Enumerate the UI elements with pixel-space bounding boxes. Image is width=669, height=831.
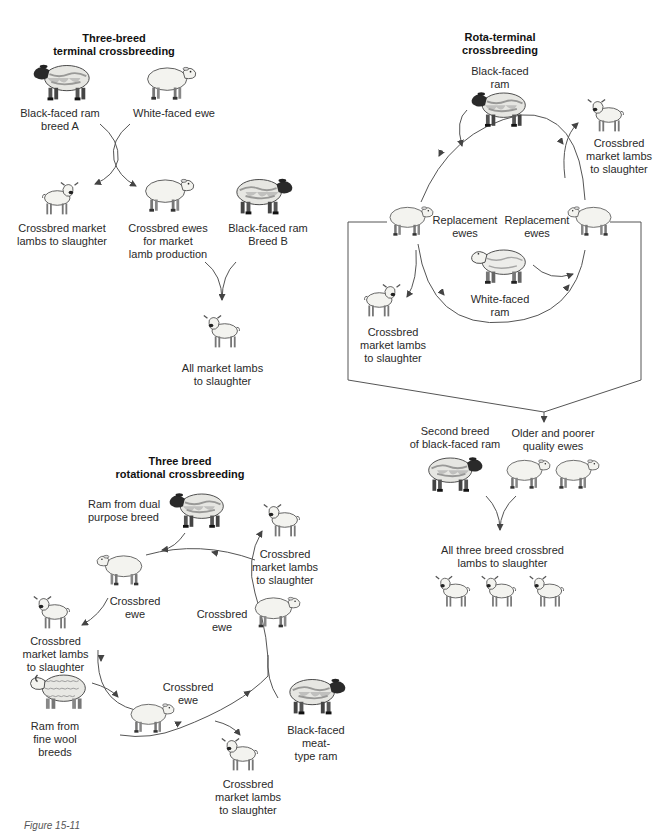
crossbred-lambs-label: Crossbred market lambs to slaughter [12,222,112,248]
crossbred-ewe-icon [140,172,196,214]
white-faced-ram-icon [470,243,530,287]
older-ewe-icon [551,452,601,492]
all-market-lambs-label: All market lambs to slaughter [170,362,275,388]
rotational-title: Three breed rotational crossbreeding [110,455,250,481]
dual-purpose-ram-icon [168,486,228,532]
crossbred-lambs-bottom-label: Crossbred market lambs to slaughter [208,778,288,817]
lamb-icon [40,178,80,218]
replacement-ewes-right-label: Replacement ewes [497,214,577,240]
black-faced-ram-b-label: Black-faced ram Breed B [218,222,318,248]
black-faced-ram-icon [470,86,530,130]
lamb-icon [220,734,260,774]
crossbred-ewe-bottom-icon [126,696,176,736]
final-lamb-icon [202,311,242,351]
crossbred-lambs-top-label: Crossbred market lambs to slaughter [250,548,320,587]
lamb-icon [480,572,518,610]
crossbred-ewe-left-label: Crossbred ewe [105,595,165,621]
second-breed-ram-icon [424,450,484,496]
terminal-title: Three-breed terminal crossbreeding [44,32,184,58]
fine-wool-ram-icon [30,668,90,714]
lamb-icon [362,280,402,320]
black-faced-ram-a-icon [32,58,94,104]
black-faced-ram-b-icon [232,172,294,218]
meat-type-ram-icon [285,672,347,718]
older-ewe-icon [502,452,552,492]
meat-type-ram-label: Black-faced meat- type ram [282,724,350,763]
lamb-icon [434,572,472,610]
crossbred-ewe-right-icon [250,590,302,630]
crossbred-ewe-left-icon [95,548,147,588]
lamb-icon [262,500,302,540]
fine-wool-ram-label: Ram from fine wool breeds [25,720,85,759]
crossbred-lambs-right-label: Crossbred market lambs to slaughter [574,137,664,176]
black-faced-ram-a-label: Black-faced ram breed A [10,107,110,133]
older-ewes-label: Older and poorer quality ewes [503,427,603,453]
white-faced-ewe-label: White-faced ewe [124,107,224,120]
white-faced-ewe-icon [142,60,198,102]
crossbred-ewes-label: Crossbred ewes for market lamb productio… [118,222,218,261]
dual-purpose-ram-label: Ram from dual purpose breed [88,498,168,524]
crossbred-ewe-right-label: Crossbred ewe [192,608,252,634]
rota-terminal-title: Rota-terminal crossbreeding [450,31,550,57]
replacement-ewes-left-label: Replacement ewes [425,214,505,240]
lamb-icon [528,572,566,610]
crossbred-lambs-left-label: Crossbred market lambs to slaughter [348,326,438,365]
white-faced-ram-label: White-faced ram [460,293,540,319]
second-breed-ram-label: Second breed of black-faced ram [405,425,505,451]
lamb-icon [586,95,626,135]
lamb-icon [32,592,72,632]
all-three-breed-label: All three breed crossbred lambs to slaug… [430,544,575,570]
figure-caption: Figure 15-11 [24,820,80,831]
